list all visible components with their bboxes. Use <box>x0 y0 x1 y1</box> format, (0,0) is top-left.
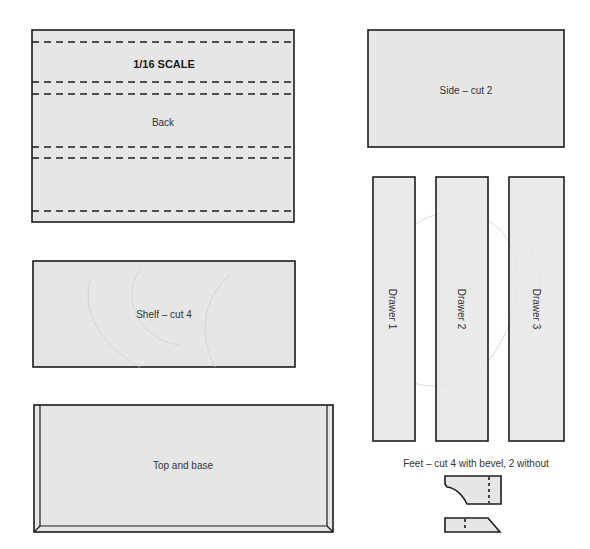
shelf-label: Shelf – cut 4 <box>136 309 192 320</box>
drawer-3-label: Drawer 3 <box>531 289 542 330</box>
drawer-1-label: Drawer 1 <box>387 289 398 330</box>
drawers: Drawer 1 Drawer 2 Drawer 3 <box>373 177 564 441</box>
foot-beveled <box>445 476 501 504</box>
foot-plain <box>445 518 500 532</box>
scale-label: 1/16 SCALE <box>133 58 195 70</box>
drawer-2-label: Drawer 2 <box>456 289 467 330</box>
back-panel: 1/16 SCALE Back <box>32 30 294 222</box>
side-panel: Side – cut 2 <box>368 30 564 147</box>
feet-label: Feet – cut 4 with bevel, 2 without <box>403 458 549 469</box>
shelf-panel: Shelf – cut 4 <box>33 261 295 367</box>
feet: Feet – cut 4 with bevel, 2 without <box>403 458 549 532</box>
top-base-panel: Top and base <box>34 405 333 532</box>
cutting-diagram: 1/16 SCALE Back Side – cut 2 Shelf – cut… <box>0 0 590 549</box>
back-label: Back <box>152 117 175 128</box>
top-base-label: Top and base <box>153 460 213 471</box>
side-label: Side – cut 2 <box>440 85 493 96</box>
